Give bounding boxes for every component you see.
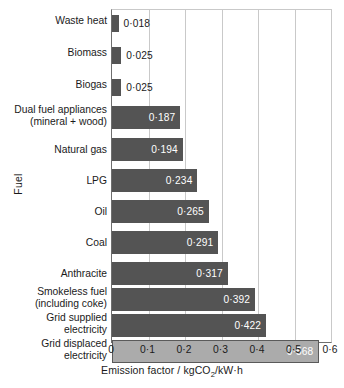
bar: 0·025	[112, 47, 121, 64]
x-axis-tick: 0	[108, 344, 114, 355]
x-axis-tick-labels: 00·10·20·30·40·50·6	[111, 344, 330, 360]
bar-value-label: 0·234	[166, 175, 198, 186]
plot-area: 0·0180·0250·0250·1870·1940·2340·2650·291…	[111, 9, 332, 343]
bar: 0·265	[112, 200, 209, 223]
x-axis-tick: 0·6	[323, 344, 338, 355]
x-axis-tick: 0·5	[286, 344, 301, 355]
bar: 0·317	[112, 262, 228, 285]
bar: 0·234	[112, 169, 197, 192]
x-axis-tick: 0·1	[140, 344, 155, 355]
category-label: LPG	[12, 175, 107, 187]
bar: 0·018	[112, 15, 119, 32]
category-label: Coal	[12, 237, 107, 249]
category-label: Biogas	[12, 79, 107, 91]
bar: 0·187	[112, 106, 180, 129]
category-label-list: Waste heatBiomassBiogasDual fuel applian…	[12, 9, 107, 341]
category-label: Oil	[12, 206, 107, 218]
category-label: Anthracite	[12, 268, 107, 280]
bar: 0·194	[112, 138, 183, 161]
bar: 0·422	[112, 314, 266, 337]
bar-chart: Fuel Waste heatBiomassBiogasDual fuel ap…	[0, 0, 344, 388]
gridline	[331, 10, 332, 342]
bar: 0·291	[112, 231, 218, 254]
category-label: Smokeless fuel (including coke)	[12, 286, 107, 309]
bar-value-label: 0·291	[187, 237, 219, 248]
bar-value-label: 0·025	[121, 82, 153, 93]
x-axis-title: Emission factor / kgCO2/kW·h	[0, 364, 344, 379]
bar: 0·392	[112, 288, 255, 311]
category-label: Biomass	[12, 47, 107, 59]
bar: 0·025	[112, 79, 121, 96]
bar-value-label: 0·194	[151, 144, 183, 155]
x-axis-tick: 0·3	[213, 344, 228, 355]
bar-value-label: 0·392	[224, 294, 256, 305]
bar-value-label: 0·317	[196, 268, 228, 279]
x-axis-tick: 0·4	[250, 344, 265, 355]
category-label: Dual fuel appliances (mineral + wood)	[12, 104, 107, 127]
bar-value-label: 0·187	[149, 112, 181, 123]
bar-value-label: 0·265	[177, 206, 209, 217]
bar-value-label: 0·422	[234, 320, 266, 331]
bar-value-label: 0·018	[119, 18, 151, 29]
category-label: Grid displaced electricity	[12, 338, 107, 361]
bar-series: 0·0180·0250·0250·1870·1940·2340·2650·291…	[112, 10, 331, 342]
bar-value-label: 0·025	[121, 50, 153, 61]
category-label: Grid supplied electricity	[12, 312, 107, 335]
category-label: Waste heat	[12, 15, 107, 27]
x-axis-tick: 0·2	[177, 344, 192, 355]
category-label: Natural gas	[12, 144, 107, 156]
